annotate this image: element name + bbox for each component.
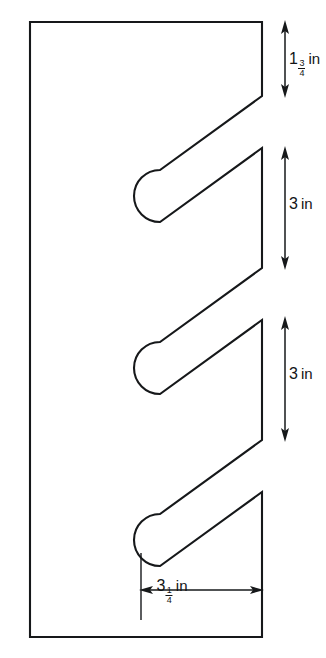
dimension-whole-number: 1 [289, 50, 298, 67]
fraction-numerator: 3 [298, 59, 305, 68]
plate-outline-path [30, 22, 262, 637]
dimension-unit: in [301, 365, 313, 382]
fraction-one-quarter: 14 [166, 586, 173, 605]
dimension-group-lower-slot [281, 316, 289, 442]
fraction-three-quarters: 34 [298, 59, 305, 78]
figure-canvas [0, 0, 326, 658]
dimension-unit: in [176, 577, 188, 594]
dimension-label-upper-slot: 3in [289, 196, 313, 212]
dimension-unit: in [301, 195, 313, 212]
dimension-label-lower-slot: 3in [289, 366, 313, 382]
dimension-label-slot-depth: 314in [156, 578, 187, 605]
fraction-numerator: 1 [166, 586, 173, 595]
dimension-label-top-right: 134in [289, 51, 320, 78]
dimension-unit: in [308, 50, 320, 67]
dimension-whole-number: 3 [156, 577, 165, 594]
fraction-denominator: 4 [298, 69, 305, 78]
dimension-group-top-right [281, 20, 289, 98]
dimension-group-upper-slot [281, 146, 289, 270]
dimension-whole-number: 3 [289, 195, 298, 212]
dimension-whole-number: 3 [289, 365, 298, 382]
engineering-drawing-figure: 134in 3in 3in 314in [0, 0, 326, 658]
fraction-denominator: 4 [166, 596, 173, 605]
